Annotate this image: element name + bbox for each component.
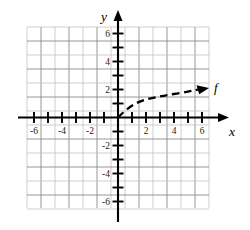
y-axis-label: y: [99, 9, 107, 24]
x-axis-label: x: [228, 124, 235, 139]
y-tick-label-neg6: -6: [102, 197, 110, 207]
x-tick-label-neg4: -4: [58, 126, 66, 136]
coordinate-plane-svg: -6 -4 -2 2 4 6 6 4 2 -2 -4 -6 x y f: [0, 0, 250, 230]
y-tick-label-4: 4: [105, 57, 110, 67]
x-axis-arrow-icon: [218, 113, 229, 122]
y-tick-label-2: 2: [105, 85, 110, 95]
function-curve-arrow-icon: [197, 85, 210, 94]
y-tick-label-neg4: -4: [102, 169, 110, 179]
x-tick-label-neg2: -2: [86, 126, 94, 136]
y-axis-arrow-icon: [114, 10, 123, 21]
graph-figure: -6 -4 -2 2 4 6 6 4 2 -2 -4 -6 x y f: [0, 0, 250, 230]
function-label-f: f: [214, 80, 220, 95]
x-tick-label-2: 2: [144, 126, 149, 136]
y-tick-label-6: 6: [105, 29, 110, 39]
y-tick-label-neg2: -2: [102, 141, 110, 151]
x-tick-label-neg6: -6: [30, 126, 38, 136]
x-tick-label-4: 4: [172, 126, 177, 136]
x-tick-label-6: 6: [200, 126, 205, 136]
